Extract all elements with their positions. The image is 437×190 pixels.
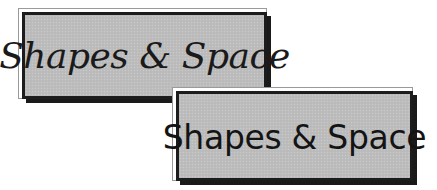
card-title-sans: Shapes & Space	[163, 118, 427, 157]
card-panel: Shapes & Space	[176, 91, 413, 181]
card-panel: Shapes & Space	[22, 12, 267, 99]
title-card-sans: Shapes & Space	[172, 87, 417, 185]
card-title-italic: Shapes & Space	[0, 35, 290, 76]
